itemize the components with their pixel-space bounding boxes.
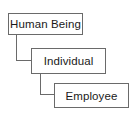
node-individual: Individual xyxy=(31,48,106,74)
connector-2-horizontal xyxy=(40,94,55,95)
node-employee: Employee xyxy=(54,83,129,108)
node-label: Human Being xyxy=(10,18,81,30)
connector-1-horizontal xyxy=(16,60,32,61)
connector-2-vertical xyxy=(40,73,41,95)
connector-1-vertical xyxy=(16,34,17,61)
node-human-being: Human Being xyxy=(8,13,83,35)
node-label: Individual xyxy=(44,55,94,67)
node-label: Employee xyxy=(66,90,118,102)
